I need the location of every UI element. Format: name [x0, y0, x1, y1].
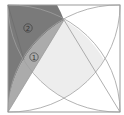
geometry-figure: 2 1 — [0, 0, 124, 115]
label-2-text: 2 — [26, 25, 30, 33]
label-1-text: 1 — [32, 54, 36, 62]
diagram-canvas: 2 1 — [0, 0, 124, 115]
